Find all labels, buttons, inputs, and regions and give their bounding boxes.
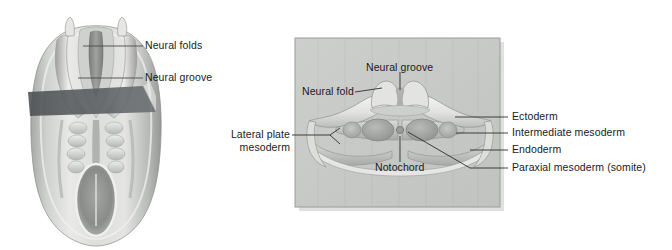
label-paraxial-mesoderm: Paraxial mesoderm (somite): [512, 161, 646, 174]
neural-fold-tip-right: [118, 17, 127, 36]
label-intermediate-mesoderm: Intermediate mesoderm: [512, 126, 625, 139]
label-neural-groove: Neural groove: [145, 71, 212, 84]
label-lateral-plate-mesoderm-line1: Lateral plate: [231, 128, 290, 140]
figure-artwork: [0, 0, 672, 250]
label-ectoderm: Ectoderm: [512, 110, 558, 123]
neural-fold-tip-left: [65, 17, 74, 36]
notochord-section: [396, 126, 403, 133]
intermediate-mesoderm-right: [439, 122, 457, 138]
paraxial-mesoderm-somite-left: [362, 119, 394, 141]
intermediate-mesoderm-left: [343, 122, 361, 138]
label-lateral-plate-mesoderm-line2: mesoderm: [240, 141, 290, 153]
label-endoderm: Endoderm: [512, 143, 561, 156]
label-notochord: Notochord: [375, 161, 424, 174]
embryo-dorsal-view: [28, 17, 161, 246]
paraxial-mesoderm-somite-right: [406, 119, 438, 141]
label-neural-groove-section: Neural groove: [366, 61, 433, 74]
label-lateral-plate-mesoderm: Lateral plate mesoderm: [212, 128, 290, 153]
label-neural-folds: Neural folds: [145, 39, 202, 52]
label-neural-fold-section: Neural fold: [302, 85, 354, 98]
figure-neurulation: Neural folds Neural groove Neural groove…: [0, 0, 672, 250]
